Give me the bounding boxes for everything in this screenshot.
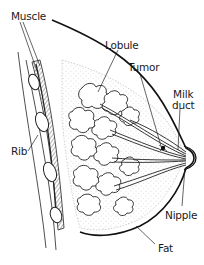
label-fat: Fat: [158, 243, 173, 254]
leader-muscle-2: [23, 22, 40, 66]
label-muscle: Muscle: [11, 11, 46, 22]
label-tumor: Tumor: [128, 62, 159, 73]
leader-muscle: [20, 22, 38, 74]
label-nipple: Nipple: [165, 210, 197, 221]
leader-rib: [28, 135, 38, 151]
breast-anatomy-diagram: [0, 0, 204, 265]
label-milk-duct: Milk duct: [172, 89, 194, 111]
label-rib: Rib: [11, 146, 27, 157]
leader-fat: [136, 226, 155, 244]
label-milk-duct-line2: duct: [172, 99, 194, 111]
label-lobule: Lobule: [105, 40, 139, 51]
